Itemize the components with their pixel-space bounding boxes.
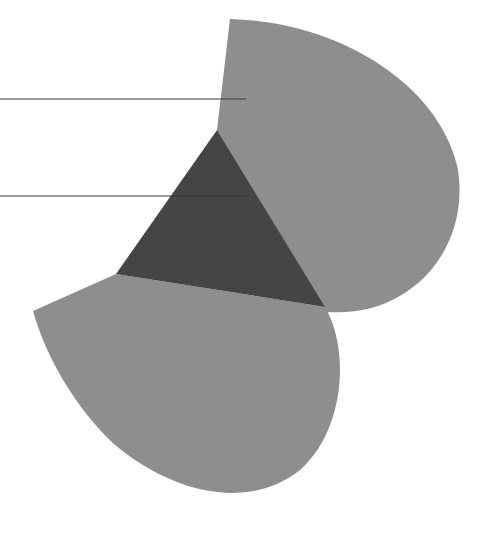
diagram-canvas: [0, 0, 479, 536]
lower-petal-shape: [33, 274, 340, 493]
geometric-diagram: [0, 0, 479, 536]
